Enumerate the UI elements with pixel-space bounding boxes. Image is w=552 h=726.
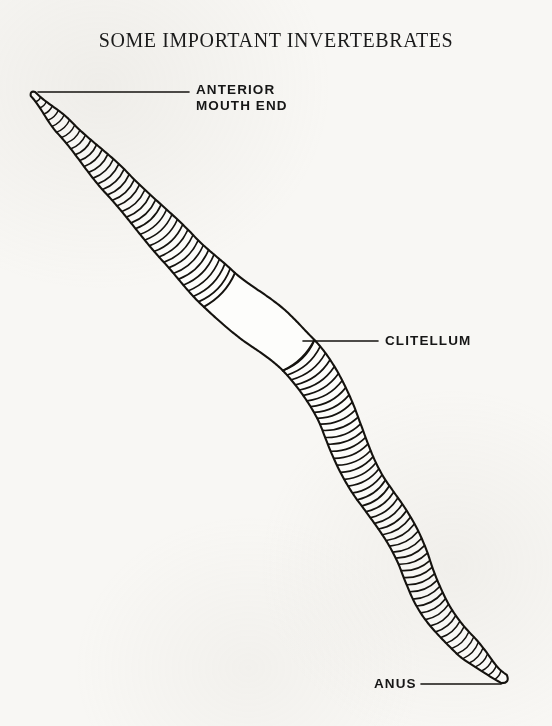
worm-body [31,92,508,684]
label-anus: ANUS [374,676,417,692]
worm-outline [31,92,508,684]
figure-page: SOME IMPORTANT INVERTEBRATES ANTERIOR MO… [0,0,552,726]
label-clitellum: CLITELLUM [385,333,471,349]
label-anterior-mouth-end: ANTERIOR MOUTH END [196,82,288,113]
